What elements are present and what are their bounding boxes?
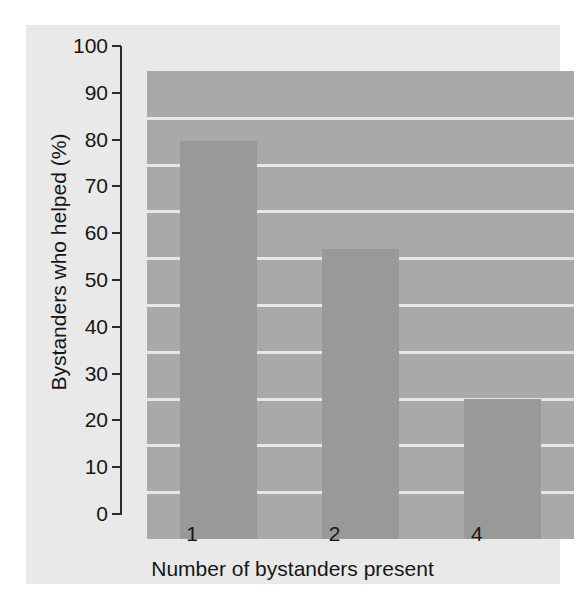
x-axis-tick-label: 4 (471, 522, 483, 546)
y-axis-tick-mark (112, 419, 121, 421)
y-axis-title: Bystanders who helped (%) (47, 27, 71, 497)
x-axis-tick-label: 2 (329, 522, 341, 546)
y-axis-tick-mark (112, 279, 121, 281)
plot-area (147, 71, 574, 539)
y-axis-tick-mark (112, 326, 121, 328)
y-axis-tick-mark (112, 232, 121, 234)
y-axis-tick-label: 40 (85, 316, 108, 337)
x-axis-tick-label: 1 (186, 522, 198, 546)
y-axis-tick-label: 100 (73, 35, 108, 56)
y-axis-tick-mark (112, 45, 121, 47)
y-axis-tick-label: 60 (85, 222, 108, 243)
y-axis-tick-mark (112, 373, 121, 375)
y-axis-tick-label: 0 (96, 503, 108, 524)
y-axis-tick-label: 90 (85, 82, 108, 103)
y-axis-tick-label: 70 (85, 175, 108, 196)
y-axis-tick-label: 20 (85, 409, 108, 430)
x-axis-title: Number of bystanders present (0, 557, 585, 581)
y-axis-tick-label: 80 (85, 129, 108, 150)
bar (464, 399, 541, 539)
bar (322, 249, 399, 539)
y-axis-tick-mark (112, 466, 121, 468)
y-axis-tick-label: 30 (85, 363, 108, 384)
y-axis-tick-mark (112, 513, 121, 515)
y-axis-tick-mark (112, 185, 121, 187)
y-axis-tick-label: 10 (85, 456, 108, 477)
y-axis-tick-mark (112, 92, 121, 94)
bar (180, 141, 257, 539)
gridline (147, 117, 574, 120)
y-axis-tick-label: 50 (85, 269, 108, 290)
y-axis-tick-mark (112, 139, 121, 141)
